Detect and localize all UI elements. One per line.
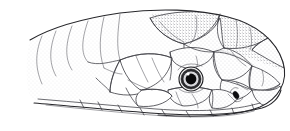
eye-highlight: [186, 72, 189, 75]
left-edge-fade: [0, 0, 14, 131]
snake-head-illustration: [0, 0, 290, 131]
illustration-canvas: Line drawing of a snake's head in left l…: [0, 0, 290, 131]
